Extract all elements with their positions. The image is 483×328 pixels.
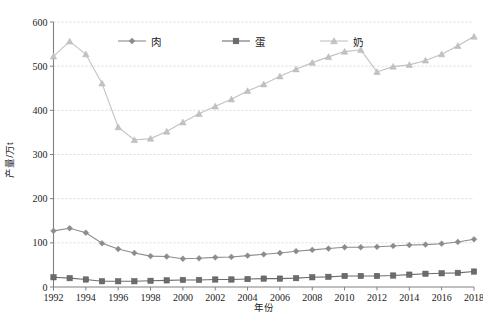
x-tick-label: 1996 — [108, 292, 128, 303]
legend-item[interactable]: 肉 — [118, 36, 161, 48]
series-line — [54, 37, 475, 140]
diamond-marker — [180, 256, 186, 262]
triangle-marker — [196, 111, 202, 117]
diamond-marker — [51, 228, 57, 234]
diamond-marker — [164, 254, 170, 260]
square-marker — [233, 38, 239, 44]
diamond-marker — [471, 236, 477, 242]
diamond-marker — [99, 240, 105, 246]
y-tick-label: 300 — [33, 149, 48, 160]
diamond-marker — [374, 244, 380, 250]
x-tick-label: 2010 — [335, 292, 355, 303]
y-axis-title: 产量/万t — [4, 142, 15, 178]
triangle-marker — [293, 66, 299, 72]
square-marker — [115, 279, 120, 284]
square-marker — [67, 275, 72, 280]
square-marker — [423, 271, 428, 276]
square-marker — [374, 273, 379, 278]
diamond-marker — [277, 250, 283, 256]
series-square — [51, 269, 477, 284]
x-tick-label: 1994 — [76, 292, 96, 303]
diamond-marker — [309, 247, 315, 253]
triangle-marker — [66, 38, 72, 44]
square-marker — [277, 276, 282, 281]
diamond-marker — [390, 243, 396, 249]
x-tick-label: 2016 — [432, 292, 452, 303]
triangle-marker — [244, 88, 250, 94]
legend-label: 蛋 — [255, 36, 266, 48]
square-marker — [164, 278, 169, 283]
diamond-marker — [261, 251, 267, 257]
diamond-marker — [358, 244, 364, 250]
x-tick-label: 2002 — [205, 292, 225, 303]
x-tick-label: 2018 — [464, 292, 483, 303]
square-marker — [51, 275, 56, 280]
triangle-marker — [438, 51, 444, 57]
diamond-marker — [245, 253, 251, 259]
square-marker — [132, 279, 137, 284]
square-marker — [245, 276, 250, 281]
square-marker — [229, 277, 234, 282]
chart-figure: 0100200300400500600 19921994199619982000… — [0, 0, 483, 328]
x-tick-label: 2014 — [399, 292, 419, 303]
square-marker — [196, 277, 201, 282]
triangle-marker — [115, 124, 121, 130]
diamond-marker — [326, 246, 332, 252]
y-tick-label: 200 — [33, 193, 48, 204]
square-marker — [213, 277, 218, 282]
series-triangle — [50, 33, 477, 142]
tickmarks-group — [50, 22, 474, 291]
diamond-marker — [115, 246, 121, 252]
legend-item[interactable]: 蛋 — [222, 36, 266, 48]
x-tick-label: 2000 — [173, 292, 193, 303]
square-marker — [310, 275, 315, 280]
triangle-marker — [228, 96, 234, 102]
diamond-marker — [342, 244, 348, 250]
diamond-marker — [212, 255, 218, 261]
triangle-marker — [261, 81, 267, 87]
square-marker — [293, 275, 298, 280]
square-marker — [148, 278, 153, 283]
x-tick-label: 1992 — [44, 292, 64, 303]
diamond-marker — [439, 241, 445, 247]
diamond-marker — [83, 230, 89, 236]
diamond-marker — [131, 250, 137, 256]
square-marker — [326, 274, 331, 279]
y-tick-label: 400 — [33, 105, 48, 116]
legend-label: 奶 — [353, 36, 363, 48]
diamond-marker — [455, 239, 461, 245]
square-marker — [180, 277, 185, 282]
x-tick-label: 2008 — [302, 292, 322, 303]
y-tick-label: 100 — [33, 237, 48, 248]
triangle-marker — [164, 128, 170, 134]
triangle-marker — [212, 103, 218, 109]
x-axis-title: 年份 — [254, 302, 274, 313]
diamond-marker — [67, 225, 73, 231]
diamond-marker — [196, 255, 202, 261]
diamond-marker — [129, 38, 135, 44]
square-marker — [261, 276, 266, 281]
triangle-marker — [277, 73, 283, 79]
triangle-marker — [99, 80, 105, 86]
triangle-marker — [455, 43, 461, 49]
square-marker — [455, 270, 460, 275]
diamond-marker — [148, 253, 154, 259]
y-tick-label: 500 — [33, 61, 48, 72]
square-marker — [471, 269, 476, 274]
series-diamond — [51, 225, 477, 261]
line-chart: 0100200300400500600 19921994199619982000… — [0, 0, 483, 328]
gridlines-group — [54, 22, 475, 243]
legend-label: 肉 — [151, 36, 161, 48]
legend-item[interactable]: 奶 — [320, 36, 363, 48]
y-tick-label: 600 — [33, 17, 48, 28]
y-tick-label: 0 — [43, 282, 48, 293]
triangle-marker — [180, 119, 186, 125]
square-marker — [358, 273, 363, 278]
diamond-marker — [229, 254, 235, 260]
square-marker — [99, 279, 104, 284]
y-tick-labels: 0100200300400500600 — [33, 17, 48, 293]
square-marker — [407, 272, 412, 277]
square-marker — [342, 273, 347, 278]
diamond-marker — [293, 248, 299, 254]
series-layer — [50, 33, 477, 284]
